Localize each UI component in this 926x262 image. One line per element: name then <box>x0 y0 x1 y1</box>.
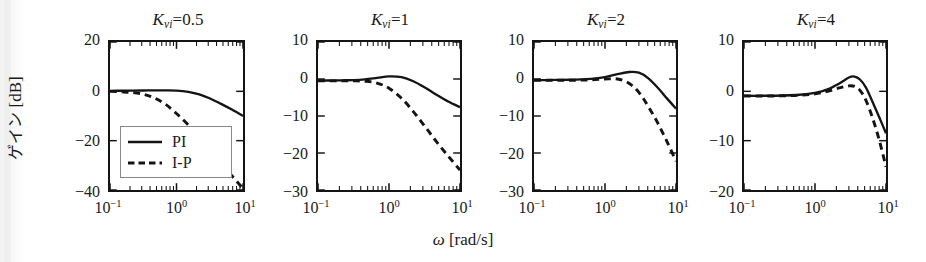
bode-magnitude-figure: ゲイン [dB] ω [rad/s] Kvi=0.5200−20−4010−11… <box>0 0 926 262</box>
panel-title-4: Kvi=4 <box>716 10 916 34</box>
x-tick-label: 101 <box>877 199 898 216</box>
panel-title-symbol: K <box>797 10 808 29</box>
panel-title-subscript: vi <box>808 18 817 30</box>
y-tick-label: 0 <box>686 83 734 99</box>
panel-title-value: 4 <box>827 10 836 29</box>
panel-4: Kvi=4100−10−2010−1100101 <box>0 0 926 262</box>
y-tick-marks <box>744 42 886 190</box>
x-tick-label: 100 <box>804 199 825 216</box>
y-tick-label: −10 <box>686 133 734 149</box>
plot-area-4 <box>744 42 886 190</box>
panel-title-equals: = <box>817 10 827 29</box>
series-pi-curve <box>744 76 886 133</box>
y-tick-label: −20 <box>686 184 734 200</box>
y-tick-label: 10 <box>686 32 734 48</box>
plot-canvas-4 <box>744 42 886 190</box>
x-tick-label: 10−1 <box>728 199 755 216</box>
plot-frame-4 <box>742 40 888 192</box>
series-ip-curve <box>744 86 886 167</box>
x-tick-marks <box>744 42 886 190</box>
